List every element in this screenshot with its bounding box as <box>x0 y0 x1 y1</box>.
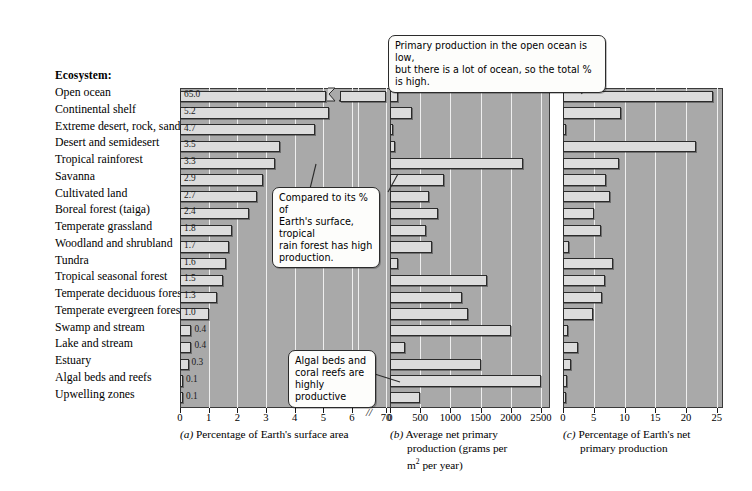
bar-row: 4.7 <box>180 122 395 139</box>
bar-row: 5.2 <box>180 105 395 122</box>
bar-row <box>390 339 550 356</box>
bar-row: 1.3 <box>180 289 395 306</box>
bar <box>563 241 569 252</box>
bar-value-label: 5.2 <box>184 106 196 116</box>
bar <box>180 91 326 102</box>
bar-value-label: 1.6 <box>184 257 196 267</box>
bar-value-label: 3.3 <box>184 156 196 166</box>
bar-row <box>563 356 723 373</box>
axis-tick-label: 2000 <box>500 412 521 423</box>
bar-value-label: 3.5 <box>184 139 196 149</box>
bar-value-label: 4.7 <box>184 123 196 133</box>
panel-c-percent-net-production <box>563 88 723 408</box>
ecosystem-label: Temperate deciduous forest <box>0 285 180 302</box>
bar-broken-segment <box>340 91 386 102</box>
axis-tick-label: 3 <box>263 412 268 423</box>
bar <box>390 275 487 286</box>
axis-break-marker: // <box>366 406 372 418</box>
bar-row <box>563 189 723 206</box>
ecosystem-label-column: Ecosystem: Open oceanContinental shelfEx… <box>0 66 180 402</box>
bar <box>390 225 426 236</box>
bar <box>563 258 613 269</box>
bar-value-label: 0.3 <box>192 357 204 367</box>
panel-b-x-axis: 05001000150020002500 <box>390 408 576 422</box>
bar-value-label: 1.7 <box>184 240 196 250</box>
bar <box>390 392 420 403</box>
bar <box>563 208 594 219</box>
bar-row: 3.5 <box>180 138 395 155</box>
bar <box>563 375 567 386</box>
panel-b-caption-line3: m2 per year) <box>390 455 550 472</box>
bar <box>563 359 571 370</box>
bar <box>390 124 393 135</box>
bar <box>563 191 610 202</box>
ecosystem-label: Tundra <box>0 252 180 269</box>
bar-row <box>390 105 550 122</box>
axis-tick-label: 6 <box>349 412 354 423</box>
bar-row <box>563 373 723 390</box>
algal-beds-callout-line3: highly productive <box>295 379 369 403</box>
bar-value-label: 2.7 <box>184 190 196 200</box>
panel-a-caption-text: Percentage of Earth's surface area <box>196 428 349 440</box>
panel-c-caption-letter: (c) <box>563 428 576 440</box>
panel-b-caption-line3-post: per year) <box>420 459 463 471</box>
bar-row <box>563 272 723 289</box>
axis-tick-label: 10 <box>619 412 630 423</box>
bar-value-label: 2.4 <box>184 206 196 216</box>
bar <box>390 325 511 336</box>
ecosystem-label: Savanna <box>0 168 180 185</box>
bar-row: 1.5 <box>180 272 395 289</box>
bar <box>180 124 315 135</box>
ecosystem-label: Estuary <box>0 352 180 369</box>
ecosystem-label: Open ocean <box>0 84 180 101</box>
panel-c-x-axis: 0510152025 <box>563 408 749 422</box>
bar <box>390 375 541 386</box>
bar <box>563 342 578 353</box>
bar <box>563 325 568 336</box>
panel-c-caption-line1: Percentage of Earth's net <box>578 428 690 440</box>
axis-tick-label: 500 <box>412 412 428 423</box>
bar-row: 1.0 <box>180 306 395 323</box>
ecosystem-label: Temperate evergreen forest <box>0 302 180 319</box>
bar <box>390 308 468 319</box>
bar-row <box>390 289 550 306</box>
panel-c-caption: (c) Percentage of Earth's net primary pr… <box>563 428 738 455</box>
bar-value-label: 65.0 <box>184 89 200 99</box>
bar-row <box>563 155 723 172</box>
bar-row <box>390 356 550 373</box>
axis-break-icon <box>326 87 340 102</box>
ecosystem-column-header: Ecosystem: <box>0 66 180 84</box>
axis-tick-label: 0 <box>387 412 392 423</box>
axis-tick-label: 15 <box>650 412 661 423</box>
bar <box>563 124 566 135</box>
bar <box>180 325 191 336</box>
open-ocean-callout-line1: Primary production in the open ocean is … <box>395 40 599 64</box>
bar-row <box>390 239 550 256</box>
bar-row <box>390 138 550 155</box>
panel-b-bar-rows <box>390 88 550 408</box>
bar <box>563 275 605 286</box>
bar-row <box>390 306 550 323</box>
ecosystem-label: Desert and semidesert <box>0 134 180 151</box>
ecosystem-label: Cultivated land <box>0 185 180 202</box>
panel-c-caption-line2: primary production <box>563 442 738 456</box>
bar-value-label: 1.5 <box>184 273 196 283</box>
bar <box>180 342 191 353</box>
bar-row <box>390 122 550 139</box>
ecosystem-label: Tropical seasonal forest <box>0 268 180 285</box>
algal-beds-callout-line1: Algal beds and <box>295 355 369 367</box>
bar <box>563 292 602 303</box>
bar <box>390 292 462 303</box>
algal-beds-callout: Algal beds and coral reefs are highly pr… <box>288 350 376 408</box>
bar-row <box>563 138 723 155</box>
bar-row <box>390 189 550 206</box>
open-ocean-callout-line2: but there is a lot of ocean, so the tota… <box>395 64 599 88</box>
panel-a-x-axis: 012345670// <box>180 408 421 422</box>
bar-row <box>563 256 723 273</box>
bar-row: 65.0 <box>180 88 395 105</box>
ecosystem-label-list: Open oceanContinental shelfExtreme deser… <box>0 84 180 402</box>
bar <box>563 141 696 152</box>
bar <box>563 392 566 403</box>
axis-tick-label: 5 <box>321 412 326 423</box>
bar-row <box>563 105 723 122</box>
